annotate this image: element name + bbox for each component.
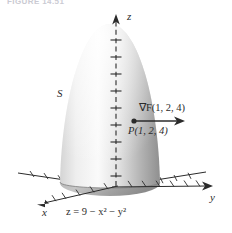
point-label: P(1, 2, 4) [128,126,168,137]
paraboloid-diagram [0,0,232,233]
x-axis-label: x [42,207,47,218]
figure-container: FIGURE 14.51 [0,0,232,233]
surface-equation-label: z = 9 − x² − y² [66,207,126,218]
gradient-vector-label: ∇F(1, 2, 4) [139,103,185,114]
y-axis-label: y [210,192,215,203]
surface-label: S [57,88,63,99]
z-axis-label: z [127,11,131,22]
